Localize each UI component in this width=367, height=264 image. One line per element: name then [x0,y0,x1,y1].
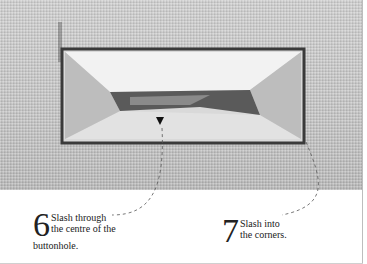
seam-mark [58,22,62,62]
step-number: 6 [33,210,50,240]
caption-line: buttonhole. [33,240,153,251]
caption-line: the centre of the [33,223,153,234]
buttonhole-illustration [60,45,306,145]
caption-step-7: 7 Slash into the corners. [222,218,322,246]
frame-border-right [362,0,363,264]
buttonhole-photo [0,0,363,190]
step-number: 7 [222,216,239,246]
caption-step-6: 6 Slash through the centre of the button… [33,212,153,251]
caption-line: Slash through [33,212,153,223]
